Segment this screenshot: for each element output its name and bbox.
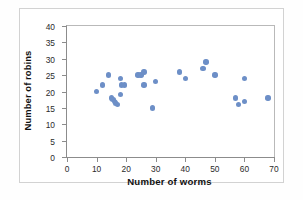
x-axis-tick bbox=[156, 157, 157, 162]
y-axis-tick: 20 bbox=[62, 92, 67, 93]
x-axis-tick-label: 40 bbox=[181, 164, 190, 174]
y-axis-tick: 10 bbox=[62, 124, 67, 125]
y-axis-label: Number of robins bbox=[22, 25, 33, 156]
x-axis-tick-label: 70 bbox=[269, 164, 278, 174]
x-axis-label: Number of worms bbox=[66, 176, 273, 187]
y-axis-tick: 5 bbox=[62, 141, 67, 142]
scatter-point bbox=[265, 95, 270, 100]
scatter-point bbox=[200, 66, 205, 71]
y-axis-tick-label: 35 bbox=[46, 38, 55, 48]
x-axis-tick-label: 50 bbox=[210, 164, 219, 174]
plot-area: 0510152025303540010203040506070 bbox=[66, 25, 275, 158]
scatter-point bbox=[203, 59, 208, 64]
y-axis-tick: 30 bbox=[62, 59, 67, 60]
x-axis-tick-label: 20 bbox=[121, 164, 130, 174]
y-axis-tick-label: 5 bbox=[50, 137, 55, 147]
scatter-point bbox=[183, 76, 188, 81]
scatter-point bbox=[118, 92, 123, 97]
x-axis-tick bbox=[244, 157, 245, 162]
y-axis-tick: 35 bbox=[62, 42, 67, 43]
y-axis-tick-label: 20 bbox=[46, 88, 55, 98]
scatter-point bbox=[177, 69, 182, 74]
x-axis-tick bbox=[274, 157, 275, 162]
scatter-point bbox=[106, 72, 111, 77]
scatter-point bbox=[150, 105, 155, 110]
scatter-point bbox=[242, 76, 247, 81]
y-axis-tick-label: 30 bbox=[46, 55, 55, 65]
x-axis-tick bbox=[67, 157, 68, 162]
scatter-point bbox=[141, 82, 146, 87]
x-axis-tick bbox=[126, 157, 127, 162]
y-axis-tick: 40 bbox=[62, 26, 67, 27]
scatter-point bbox=[100, 82, 105, 87]
scatter-point bbox=[94, 89, 99, 94]
y-axis-tick-label: 40 bbox=[46, 22, 55, 32]
y-axis-tick-label: 10 bbox=[46, 120, 55, 130]
scatter-point bbox=[115, 102, 120, 107]
scatter-point bbox=[233, 95, 238, 100]
scatter-point bbox=[236, 102, 241, 107]
x-axis-tick-label: 0 bbox=[65, 164, 70, 174]
figure-panel: Number of robins 05101520253035400102030… bbox=[19, 8, 284, 183]
y-axis-tick-label: 25 bbox=[46, 71, 55, 81]
scatter-point bbox=[153, 79, 158, 84]
scatter-point bbox=[141, 69, 146, 74]
y-axis-tick-label: 0 bbox=[50, 153, 55, 163]
y-axis-tick-label: 15 bbox=[46, 104, 55, 114]
x-axis-tick-label: 30 bbox=[151, 164, 160, 174]
scatter-point bbox=[212, 72, 217, 77]
x-axis-tick-label: 60 bbox=[240, 164, 249, 174]
scatter-point bbox=[118, 76, 123, 81]
y-axis-tick: 25 bbox=[62, 75, 67, 76]
x-axis-tick bbox=[215, 157, 216, 162]
scatter-point bbox=[122, 82, 127, 87]
x-axis-tick bbox=[97, 157, 98, 162]
x-axis-tick bbox=[185, 157, 186, 162]
x-axis-tick-label: 10 bbox=[92, 164, 101, 174]
scatter-point bbox=[242, 99, 247, 104]
y-axis-tick: 15 bbox=[62, 108, 67, 109]
